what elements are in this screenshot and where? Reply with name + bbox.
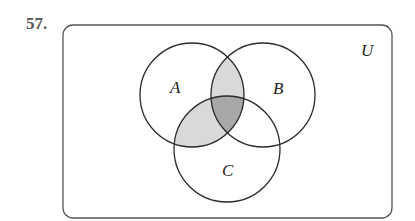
- label-a: A: [169, 78, 181, 97]
- venn-diagram: A B C U: [0, 0, 415, 221]
- label-universe: U: [361, 41, 375, 60]
- label-c: C: [222, 161, 234, 180]
- label-b: B: [273, 79, 284, 98]
